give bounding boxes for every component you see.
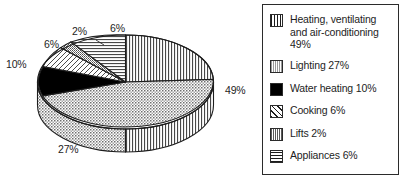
pie-label-water-heating: 10% [6, 58, 26, 70]
pie-label-appliances: 6% [110, 22, 125, 34]
pie-chart-svg [0, 0, 255, 189]
legend-item-cooking: Cooking 6% [270, 104, 393, 118]
pie-label-cooking: 6% [44, 38, 59, 50]
legend-label-cooking: Cooking 6% [290, 104, 345, 117]
pie-slice-hvac [126, 35, 214, 82]
legend-swatch-vertical-lines-icon [270, 14, 283, 27]
chart-legend: Heating, ventilating and air-conditionin… [262, 4, 399, 175]
pie-label-lighting: 27% [58, 143, 78, 155]
legend-item-lighting: Lighting 27% [270, 59, 393, 73]
legend-swatch-diagonal-lines-icon [270, 105, 283, 118]
legend-item-list: Heating, ventilating and air-conditionin… [270, 13, 393, 172]
legend-label-hvac: Heating, ventilating and air-conditionin… [290, 13, 393, 51]
legend-item-lifts: Lifts 2% [270, 127, 393, 141]
legend-label-water-heating: Water heating 10% [290, 82, 376, 95]
legend-swatch-fine-dots-icon [270, 60, 283, 73]
pie-chart-plot: 49% 27% 10% 6% 2% 6% [0, 0, 255, 189]
legend-label-lifts: Lifts 2% [290, 127, 326, 140]
legend-item-water-heating: Water heating 10% [270, 82, 393, 96]
legend-swatch-solid-black-icon [270, 83, 283, 96]
legend-label-lighting: Lighting 27% [290, 59, 349, 72]
legend-swatch-dense-stipple-icon [270, 128, 283, 141]
legend-label-appliances: Appliances 6% [290, 149, 358, 162]
legend-item-hvac: Heating, ventilating and air-conditionin… [270, 13, 393, 51]
pie-label-hvac: 49% [225, 84, 245, 96]
legend-item-appliances: Appliances 6% [270, 149, 393, 163]
legend-swatch-horizontal-lines-icon [270, 150, 283, 163]
pie-label-lifts: 2% [72, 25, 87, 37]
pie-chart-figure: 49% 27% 10% 6% 2% 6% Heating, ventilatin… [0, 0, 411, 189]
